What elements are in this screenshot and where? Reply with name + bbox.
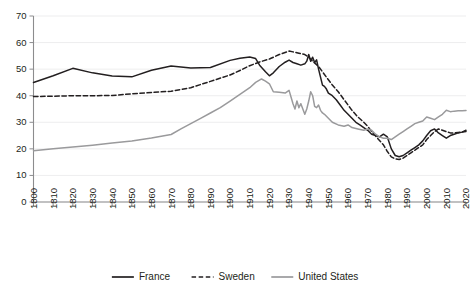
data-series (34, 51, 467, 159)
legend-label-france: France (139, 271, 171, 282)
legend-label-united-states: United States (298, 271, 358, 282)
x-tick-label: 1800 (28, 188, 39, 209)
chart-legend: FranceSwedenUnited States (112, 271, 358, 282)
x-tick-label: 1940 (303, 188, 314, 209)
x-tick-labels: 1800181018201830184018501860187018801890… (28, 188, 472, 209)
x-tick-label: 1890 (205, 188, 216, 209)
line-chart: 010203040506070 180018101820183018401850… (0, 0, 473, 292)
y-tick-label: 40 (16, 90, 27, 101)
y-tick-label: 50 (16, 63, 27, 74)
series-line-france (34, 55, 467, 157)
x-tick-label: 1830 (87, 188, 98, 209)
x-tick-label: 2000 (421, 188, 432, 209)
y-axis (30, 16, 34, 202)
x-tick-label: 1950 (323, 188, 334, 209)
x-tick-label: 1930 (283, 188, 294, 209)
y-tick-label: 30 (16, 116, 27, 127)
x-tick-label: 1860 (146, 188, 157, 209)
y-tick-label: 20 (16, 143, 27, 154)
series-line-united-states (34, 79, 467, 151)
x-tick-label: 1870 (166, 188, 177, 209)
x-tick-label: 1960 (342, 188, 353, 209)
y-tick-label: 0 (21, 196, 26, 207)
x-tick-label: 1820 (67, 188, 78, 209)
y-tick-label: 60 (16, 37, 27, 48)
x-tick-label: 1980 (382, 188, 393, 209)
x-tick-label: 2020 (460, 188, 471, 209)
chart-canvas: 010203040506070 180018101820183018401850… (0, 0, 473, 292)
y-tick-label: 70 (16, 10, 27, 21)
gridlines (34, 16, 467, 202)
x-tick-label: 1970 (362, 188, 373, 209)
x-tick-label: 1900 (224, 188, 235, 209)
x-tick-label: 1990 (401, 188, 412, 209)
x-tick-label: 2010 (441, 188, 452, 209)
x-tick-label: 1840 (107, 188, 118, 209)
series-line-sweden (34, 51, 467, 159)
y-tick-labels: 010203040506070 (16, 10, 27, 207)
legend-label-sweden: Sweden (219, 271, 255, 282)
x-tick-label: 1810 (48, 188, 59, 209)
y-tick-label: 10 (16, 169, 27, 180)
x-tick-label: 1850 (126, 188, 137, 209)
x-tick-label: 1920 (264, 188, 275, 209)
x-tick-label: 1910 (244, 188, 255, 209)
x-tick-label: 1880 (185, 188, 196, 209)
